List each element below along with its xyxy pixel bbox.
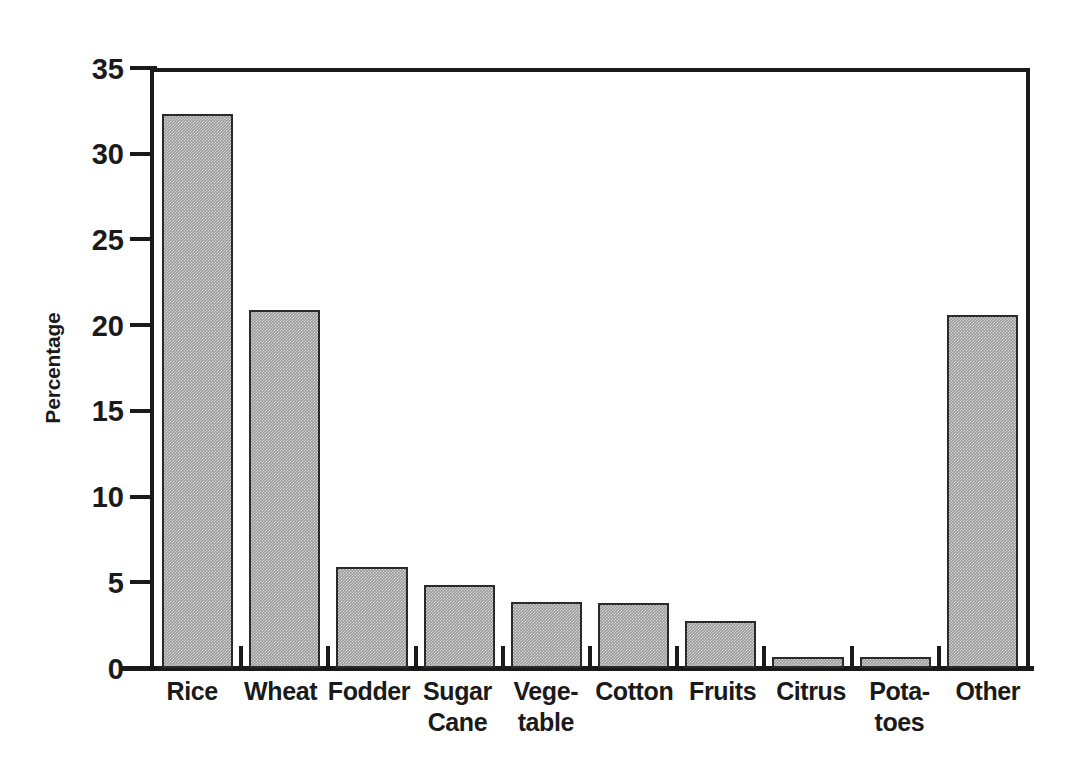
bar-slot — [503, 68, 590, 668]
y-axis-tick-label: 10 — [92, 483, 124, 512]
bar-slot — [590, 68, 677, 668]
bar-slot — [241, 68, 328, 668]
bar-slot — [416, 68, 503, 668]
x-axis-tick-mark — [850, 646, 854, 668]
y-axis-tick-label: 25 — [92, 226, 124, 255]
x-axis-tick-label: Pota- toes — [855, 676, 943, 737]
bar-chart-figure: Percentage 05101520253035 RiceWheatFodde… — [0, 0, 1077, 777]
x-axis-tick-mark — [239, 646, 243, 668]
x-axis-tick-mark — [588, 646, 592, 668]
x-axis-tick-label: Other — [944, 676, 1032, 707]
x-axis-tick-label: Sugar Cane — [413, 676, 501, 737]
x-axis-tick-mark — [675, 646, 679, 668]
x-axis-tick-mark — [326, 646, 330, 668]
y-axis-tick-label: 15 — [92, 397, 124, 426]
y-axis-title-text: Percentage — [41, 312, 65, 423]
x-axis-tick-mark — [762, 646, 766, 668]
bar-slot — [939, 68, 1026, 668]
x-axis-tick-label: Wheat — [236, 676, 324, 707]
bar-slot — [852, 68, 939, 668]
x-axis-tick-mark — [501, 646, 505, 668]
x-axis-tick-label: Vege- table — [502, 676, 590, 737]
y-axis-ticks: 05101520253035 — [68, 68, 124, 668]
x-axis-tick-label: Cotton — [590, 676, 678, 707]
x-axis-tick-label: Citrus — [767, 676, 855, 707]
y-axis-tick-label: 20 — [92, 312, 124, 341]
bar — [947, 315, 1018, 668]
bar-slot — [328, 68, 415, 668]
bar — [249, 310, 320, 668]
x-axis-labels: RiceWheatFodderSugar CaneVege- tableCott… — [148, 676, 1032, 737]
bar-series — [154, 68, 1026, 668]
y-axis-tick-label: 35 — [92, 55, 124, 84]
x-axis-tick-mark — [414, 646, 418, 668]
bar — [162, 114, 233, 668]
y-axis-title: Percentage — [36, 68, 70, 668]
x-axis-tick-mark — [937, 646, 941, 668]
bar-slot — [154, 68, 241, 668]
y-axis-tick-label: 30 — [92, 140, 124, 169]
y-axis-tick-label: 5 — [108, 569, 124, 598]
bar-slot — [764, 68, 851, 668]
x-axis-tick-label: Fodder — [325, 676, 413, 707]
x-axis-ticks — [154, 646, 1026, 668]
x-axis-tick-label: Fruits — [678, 676, 766, 707]
bar-slot — [677, 68, 764, 668]
x-axis-tick-label: Rice — [148, 676, 236, 707]
